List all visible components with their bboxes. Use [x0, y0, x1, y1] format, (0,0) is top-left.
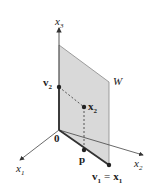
v1-x1-label: v1=x1: [92, 170, 123, 185]
x1-axis-label: x1: [15, 162, 24, 177]
point-v2: [57, 85, 61, 89]
point-p: [82, 148, 86, 152]
p-label: p: [79, 153, 85, 165]
point-v1: [107, 163, 111, 167]
v2-label: v2: [43, 76, 53, 91]
x2-axis-label: x2: [133, 157, 143, 172]
diagram-canvas: x3 x2 x1 W 0 v2 x2 p v1=x1: [0, 0, 157, 191]
point-x2: [82, 105, 86, 109]
x3-axis-label: x3: [54, 15, 64, 30]
origin-label: 0: [54, 132, 60, 144]
plane-w-label: W: [113, 75, 123, 87]
